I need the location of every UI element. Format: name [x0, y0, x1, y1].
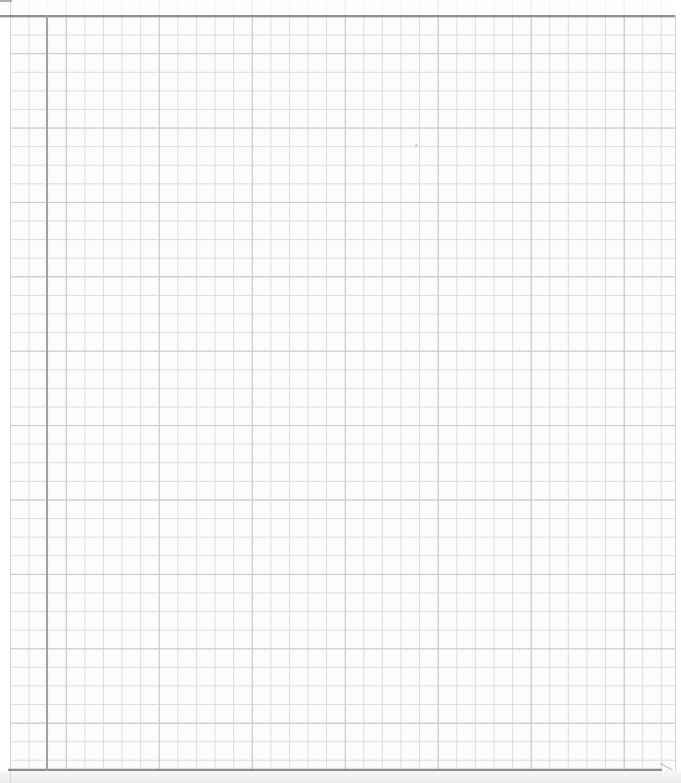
top-left-scan-artifact: [0, 0, 12, 2]
below-page-area: [0, 771, 681, 783]
scanned-graph-paper-page: [0, 0, 681, 783]
top-scan-fade: [0, 0, 681, 15]
scan-speck: [415, 144, 418, 147]
left-scan-margin: [0, 0, 10, 783]
top-page-edge-line: [0, 15, 675, 17]
graph-grid: [0, 0, 681, 783]
left-paper-edge-line: [10, 0, 11, 783]
right-scan-margin: [676, 0, 681, 783]
vertical-margin-rule: [46, 15, 48, 771]
bottom-page-edge-line: [8, 769, 662, 771]
right-paper-edge-line: [675, 15, 676, 771]
